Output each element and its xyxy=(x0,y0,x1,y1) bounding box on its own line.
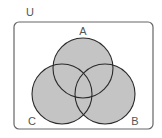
set-b-label: B xyxy=(131,115,138,127)
venn-diagram: U A B C xyxy=(0,0,162,138)
set-c-label: C xyxy=(28,115,36,127)
set-a-label: A xyxy=(79,25,87,37)
circle-fills xyxy=(32,38,135,124)
universe-label: U xyxy=(26,6,34,18)
